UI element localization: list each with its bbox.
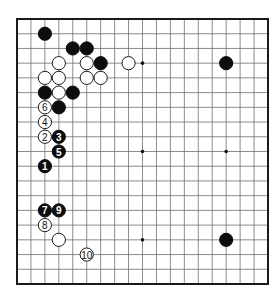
move-number: 9 (56, 205, 62, 216)
white-stone-disc (38, 71, 51, 84)
numbered-white-stone: 6 (38, 101, 51, 114)
black-stone (94, 57, 107, 70)
numbered-white-stone: 4 (38, 115, 51, 128)
white-stone-disc (52, 233, 65, 246)
move-number: 4 (42, 117, 48, 128)
white-stone (80, 57, 93, 70)
move-number: 2 (42, 132, 48, 143)
move-number: 6 (42, 102, 48, 113)
black-stone-disc (220, 57, 233, 70)
white-stone (38, 71, 51, 84)
numbered-black-stone: 9 (52, 204, 65, 217)
numbered-black-stone: 5 (52, 145, 65, 158)
white-stone (52, 71, 65, 84)
black-stone (52, 101, 65, 114)
numbered-black-stone: 1 (38, 160, 51, 173)
white-stone (122, 57, 135, 70)
star-point (141, 150, 145, 154)
stones-layer: 12345678910 (38, 27, 232, 261)
numbered-black-stone: 7 (38, 204, 51, 217)
black-stone (220, 57, 233, 70)
numbered-white-stone: 10 (80, 248, 93, 261)
black-stone (80, 42, 93, 55)
white-stone (52, 86, 65, 99)
white-stone (52, 57, 65, 70)
star-point (141, 61, 145, 65)
black-stone-disc (66, 42, 79, 55)
white-stone-disc (52, 71, 65, 84)
black-stone-disc (220, 233, 233, 246)
numbered-white-stone: 8 (38, 219, 51, 232)
white-stone-disc (52, 57, 65, 70)
black-stone (66, 86, 79, 99)
go-board: 12345678910 (0, 0, 280, 305)
white-stone (52, 233, 65, 246)
white-stone (94, 71, 107, 84)
move-number: 1 (42, 161, 48, 172)
move-number: 5 (56, 147, 62, 158)
move-number: 10 (81, 250, 93, 261)
black-stone (38, 86, 51, 99)
go-board-canvas: 12345678910 (0, 0, 280, 305)
white-stone-disc (122, 57, 135, 70)
star-point (224, 150, 228, 154)
numbered-black-stone: 3 (52, 130, 65, 143)
black-stone-disc (38, 27, 51, 40)
white-stone-disc (52, 86, 65, 99)
black-stone (38, 27, 51, 40)
black-stone-disc (80, 42, 93, 55)
move-number: 7 (42, 205, 48, 216)
white-stone-disc (94, 71, 107, 84)
move-number: 8 (42, 220, 48, 231)
black-stone (66, 42, 79, 55)
white-stone (80, 71, 93, 84)
white-stone-disc (80, 57, 93, 70)
black-stone (220, 233, 233, 246)
move-number: 3 (56, 132, 62, 143)
black-stone-disc (52, 101, 65, 114)
white-stone-disc (80, 71, 93, 84)
numbered-white-stone: 2 (38, 130, 51, 143)
star-point (141, 238, 145, 242)
black-stone-disc (66, 86, 79, 99)
black-stone-disc (94, 57, 107, 70)
black-stone-disc (38, 86, 51, 99)
